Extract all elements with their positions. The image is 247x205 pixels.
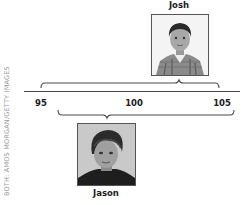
tick-label-105: 105: [210, 98, 234, 108]
tick-label-95: 95: [29, 98, 53, 108]
upper-brace-josh: [41, 80, 219, 88]
tick-label-100: 100: [122, 98, 146, 108]
subject-label-jason: Jason: [76, 188, 136, 198]
photo-jason: [77, 123, 136, 186]
portrait-jason-icon: [78, 124, 135, 185]
lower-brace-jason: [58, 110, 234, 118]
